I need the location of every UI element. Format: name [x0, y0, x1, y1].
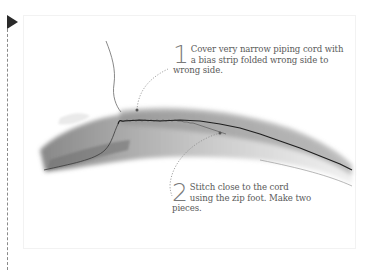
step-1-text: Cover very narrow piping cord with a bia… [173, 44, 343, 75]
step-2-number: 2 [172, 183, 188, 202]
cord-end-upper [106, 41, 121, 112]
bias-strip-fabric [40, 107, 352, 184]
step-1-number: 1 [173, 45, 189, 64]
step-2-text: Stitch close to the cord using the zip f… [172, 182, 311, 213]
step-1-callout: 1 Cover very narrow piping cord with a b… [173, 44, 345, 76]
piping-cord-illustration [0, 0, 381, 270]
step-2-callout: 2 Stitch close to the cord using the zip… [172, 182, 312, 214]
leader-line-1 [137, 69, 168, 110]
